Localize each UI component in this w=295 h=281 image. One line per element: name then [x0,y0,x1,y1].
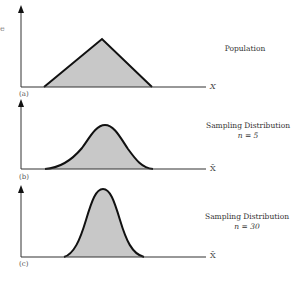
panel-c-label: (c) [19,260,28,268]
panel-a-label: (a) [19,90,29,98]
panel-b-label: (b) [19,173,29,181]
panel-a-plot [21,13,206,87]
bell-curve-b-fill [45,125,153,169]
panel-b-title: Sampling Distribution n = 5 [203,121,293,141]
panel-a-title-text: Population [200,44,290,54]
panel-b-sample-size: n = 5 [203,131,293,141]
panel-c-sample-size: n = 30 [202,222,292,232]
x-axis-c-label: X̄ [210,251,216,260]
population-triangle-fill [44,39,152,87]
panel-b-plot [21,107,206,169]
panel-b-title-text: Sampling Distribution [203,121,293,131]
panel-c-title: Sampling Distribution n = 30 [202,212,292,232]
panel-c-plot [21,189,206,257]
x-axis-a-label: X [210,82,216,91]
panel-a-title: Population [200,44,290,54]
x-axis-b-label: X̄ [210,164,216,173]
panel-c-title-text: Sampling Distribution [202,212,292,222]
